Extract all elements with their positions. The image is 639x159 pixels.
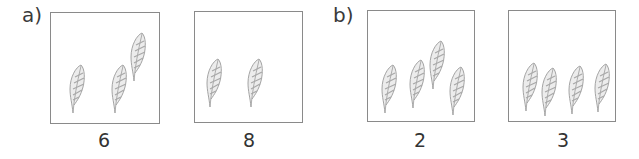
leaf-icon <box>591 62 613 114</box>
leaf-icon <box>203 57 225 109</box>
part-b-label: b) <box>333 5 354 25</box>
panel-b1 <box>367 10 475 122</box>
panel-b2-caption: 3 <box>543 130 583 150</box>
panel-a1 <box>50 12 160 124</box>
part-a-label: a) <box>22 5 42 25</box>
panel-b2 <box>508 10 616 122</box>
panel-a2-caption: 8 <box>229 130 269 150</box>
leaf-icon <box>565 64 587 116</box>
panel-a1-caption: 6 <box>84 130 124 150</box>
panel-b1-caption: 2 <box>400 130 440 150</box>
leaf-icon <box>378 63 400 115</box>
leaf-icon <box>426 39 448 91</box>
leaf-icon <box>446 65 468 117</box>
leaf-icon <box>406 58 428 110</box>
leaf-icon <box>538 66 560 118</box>
leaf-icon <box>66 63 88 115</box>
leaf-icon <box>127 31 149 83</box>
panel-a2 <box>194 11 303 123</box>
leaf-icon <box>244 57 266 109</box>
